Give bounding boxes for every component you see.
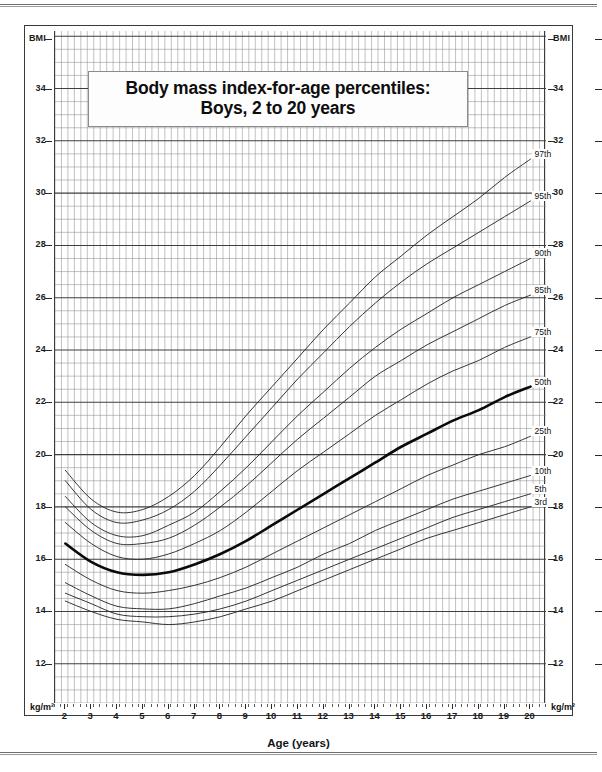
y-tick-dash: [595, 298, 602, 299]
x-minor-tick: [332, 704, 333, 707]
x-tick-mark: [90, 704, 91, 709]
y-axis-tick-right-18: 18: [553, 501, 597, 511]
x-tick-mark: [452, 704, 453, 709]
y-tick-dash: [45, 402, 52, 403]
x-minor-tick: [532, 704, 533, 707]
y-axis-tick-left-16: 16: [2, 553, 46, 563]
x-axis-tick-2: 2: [52, 710, 76, 721]
y-tick-dash: [45, 350, 52, 351]
y-tick-dash: [595, 611, 602, 612]
percentile-label-25th: 25th: [532, 426, 552, 436]
x-minor-tick: [67, 704, 68, 707]
x-tick-mark: [323, 704, 324, 709]
x-minor-tick: [416, 704, 417, 707]
percentile-label-75th: 75th: [532, 327, 552, 337]
y-axis-tick-left-14: 14: [2, 605, 46, 615]
y-tick-dash: [548, 141, 555, 142]
y-tick-dash: [45, 39, 52, 40]
x-tick-mark: [142, 704, 143, 709]
grid-and-curves: [55, 31, 546, 703]
x-minor-tick: [216, 704, 217, 707]
y-tick-dash: [548, 402, 555, 403]
y-tick-dash: [595, 89, 602, 90]
percentile-label-3rd: 3rd: [532, 497, 547, 507]
y-tick-dash: [595, 559, 602, 560]
y-tick-dash: [548, 507, 555, 508]
x-tick-mark: [116, 704, 117, 709]
page-bottom-rule-secondary: [0, 754, 597, 755]
page-top-rule-secondary: [0, 6, 597, 7]
plot-area: [54, 31, 545, 703]
y-tick-dash: [45, 193, 52, 194]
percentile-label-97th: 97th: [532, 149, 552, 159]
x-axis-tick-11: 11: [285, 710, 309, 721]
y-axis-tick-left-bmi: BMI: [2, 33, 46, 43]
x-minor-tick: [513, 704, 514, 707]
x-minor-tick: [183, 704, 184, 707]
x-minor-tick: [442, 704, 443, 707]
x-minor-tick: [467, 704, 468, 707]
x-axis-title: Age (years): [0, 737, 597, 749]
y-axis-right-unit: kg/m²: [551, 702, 575, 712]
x-minor-tick: [358, 704, 359, 707]
x-minor-tick: [422, 704, 423, 707]
y-tick-dash: [548, 559, 555, 560]
percentile-label-90th: 90th: [532, 248, 552, 258]
x-minor-tick: [248, 704, 249, 707]
y-tick-dash: [45, 298, 52, 299]
x-minor-tick: [157, 704, 158, 707]
x-minor-tick: [500, 704, 501, 707]
x-tick-mark: [194, 704, 195, 709]
y-tick-dash: [548, 611, 555, 612]
y-axis-tick-left-28: 28: [2, 239, 46, 249]
x-minor-tick: [190, 704, 191, 707]
x-minor-tick: [222, 704, 223, 707]
x-minor-tick: [345, 704, 346, 707]
chart-title-line-1: Body mass index-for-age percentiles:: [126, 79, 431, 99]
x-axis-tick-9: 9: [233, 710, 257, 721]
y-axis-tick-right-14: 14: [553, 605, 597, 615]
y-axis-tick-left-22: 22: [2, 396, 46, 406]
x-minor-tick: [177, 704, 178, 707]
y-tick-dash: [45, 559, 52, 560]
x-axis-tick-3: 3: [78, 710, 102, 721]
x-tick-mark: [478, 704, 479, 709]
x-minor-tick: [390, 704, 391, 707]
x-minor-tick: [306, 704, 307, 707]
y-tick-dash: [595, 39, 602, 40]
x-minor-tick: [73, 704, 74, 707]
x-minor-tick: [144, 704, 145, 707]
y-tick-dash: [548, 245, 555, 246]
y-tick-dash: [595, 350, 602, 351]
x-minor-tick: [526, 704, 527, 707]
y-tick-dash: [595, 402, 602, 403]
x-minor-tick: [364, 704, 365, 707]
y-tick-dash: [45, 141, 52, 142]
y-tick-dash: [45, 507, 52, 508]
x-axis-tick-15: 15: [388, 710, 412, 721]
y-axis-tick-right-20: 20: [553, 449, 597, 459]
x-axis-tick-14: 14: [362, 710, 386, 721]
x-axis-tick-4: 4: [104, 710, 128, 721]
x-minor-tick: [203, 704, 204, 707]
x-minor-tick: [293, 704, 294, 707]
y-tick-dash: [548, 298, 555, 299]
x-minor-tick: [196, 704, 197, 707]
x-minor-tick: [267, 704, 268, 707]
x-minor-tick: [312, 704, 313, 707]
x-tick-mark: [297, 704, 298, 709]
x-minor-tick: [138, 704, 139, 707]
x-axis-tick-10: 10: [259, 710, 283, 721]
x-minor-tick: [493, 704, 494, 707]
x-tick-mark: [168, 704, 169, 709]
x-tick-mark: [64, 704, 65, 709]
x-axis-tick-13: 13: [337, 710, 361, 721]
x-minor-tick: [80, 704, 81, 707]
y-axis-tick-left-18: 18: [2, 501, 46, 511]
x-minor-tick: [351, 704, 352, 707]
y-tick-dash: [45, 664, 52, 665]
page-bottom-rule: [0, 752, 597, 753]
x-axis-tick-7: 7: [182, 710, 206, 721]
percentile-label-10th: 10th: [532, 466, 552, 476]
x-axis-tick-5: 5: [130, 710, 154, 721]
